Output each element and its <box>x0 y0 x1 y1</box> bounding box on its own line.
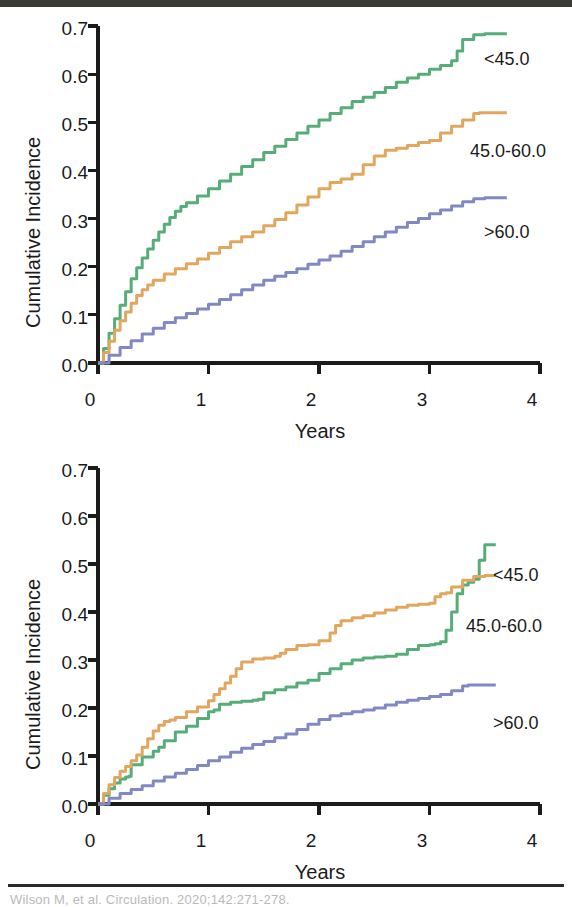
y-tick-label: 0.6 <box>34 67 88 86</box>
series-label-gt60: >60.0 <box>493 714 539 732</box>
y-axis-title: Cumulative Incidence <box>22 579 45 770</box>
series-label-lt45: <45.0 <box>493 566 539 584</box>
x-tick-label: 4 <box>517 390 547 409</box>
x-tick-label: 2 <box>296 831 326 850</box>
y-tick-label: 0.5 <box>34 115 88 134</box>
x-tick-label: 2 <box>296 390 326 409</box>
y-tick-label: 0.7 <box>34 19 88 38</box>
series-label-mid: 45.0-60.0 <box>466 617 542 635</box>
x-axis-title: Years <box>240 861 400 884</box>
x-tick-label: 4 <box>517 831 547 850</box>
series-label-mid: 45.0-60.0 <box>470 142 546 160</box>
series-label-lt45: <45.0 <box>484 50 530 68</box>
x-tick-label: 1 <box>186 390 216 409</box>
x-tick-label: 3 <box>407 390 437 409</box>
chart-panel-top: 0.7 0.6 0.5 0.4 0.3 0.2 0.1 0.0 0 1 2 3 … <box>0 8 572 448</box>
series-label-gt60: >60.0 <box>484 223 530 241</box>
figure-caption: Wilson M, et al. Circulation. 2020;142:2… <box>10 892 290 907</box>
y-axis-title: Cumulative Incidence <box>22 137 45 328</box>
scan-artifact-bar <box>0 0 572 7</box>
y-tick-label: 0.7 <box>34 461 88 480</box>
x-tick-label: 0 <box>75 390 105 409</box>
chart-panel-bottom: 0.7 0.6 0.5 0.4 0.3 0.2 0.1 0.0 0 1 2 3 … <box>0 452 572 872</box>
x-tick-label: 0 <box>75 831 105 850</box>
x-tick-label: 1 <box>186 831 216 850</box>
y-tick-label: 0.6 <box>34 509 88 528</box>
y-tick-label: 0.5 <box>34 557 88 576</box>
x-axis-title: Years <box>240 420 400 443</box>
caption-divider <box>8 884 564 887</box>
y-tick-label: 0.0 <box>34 797 88 816</box>
y-tick-label: 0.0 <box>34 356 88 375</box>
x-tick-label: 3 <box>407 831 437 850</box>
